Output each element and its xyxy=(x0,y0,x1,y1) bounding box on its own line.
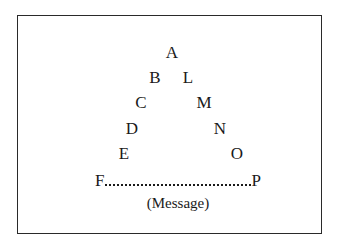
right-letter-n: N xyxy=(214,120,226,137)
left-letter-e: E xyxy=(119,145,129,162)
message-caption: (Message) xyxy=(147,196,209,211)
base-letter-p: P xyxy=(252,172,261,189)
left-letter-c: C xyxy=(135,94,146,111)
right-letter-o: O xyxy=(231,145,243,162)
apex-letter-a: A xyxy=(166,44,178,61)
left-letter-b: B xyxy=(149,69,160,86)
left-letter-d: D xyxy=(126,120,138,137)
base-letter-f: F xyxy=(95,172,104,189)
dotted-connector-line xyxy=(105,184,250,186)
right-letter-m: M xyxy=(196,94,211,111)
right-letter-l: L xyxy=(183,69,193,86)
message-baseline: F P xyxy=(95,171,261,189)
